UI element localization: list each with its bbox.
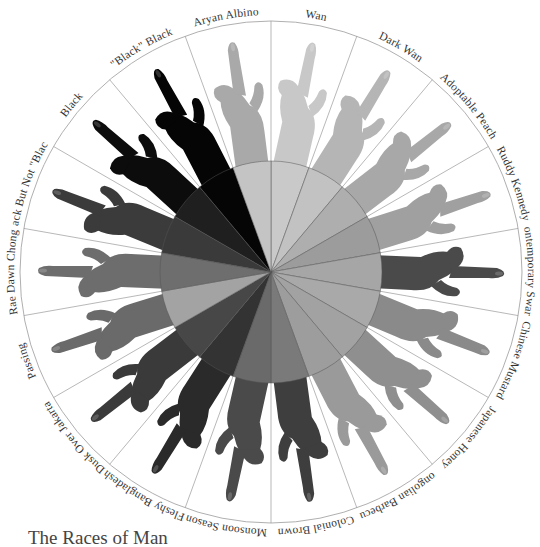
segment-label: Rae Dawn Chong [4,228,20,315]
segment-label: Passing [14,342,38,381]
segment-label: Monsoon Season [184,513,268,539]
hand-icon [38,248,171,298]
segment-label: Black [58,90,85,119]
hand-icon [371,247,504,297]
segment-label: Colonial Brown [277,514,355,539]
segment-label: "Black" Black [108,25,174,70]
segment-label: Wan [305,7,328,23]
segment-label: Japanese Honey [439,405,499,473]
segment-label: Chinese Mustard [494,320,533,401]
inner-pie [160,161,382,383]
segment-label: Ruddy Kennedy [495,144,533,222]
races-pie-chart: WanDark WanAdoptable PeachRuddy KennedyC… [0,0,540,547]
chart-title: The Races of Man [28,527,168,547]
segment-label: Dark Wan [377,29,425,64]
segment-label: Black But Not "Black" [0,0,50,227]
